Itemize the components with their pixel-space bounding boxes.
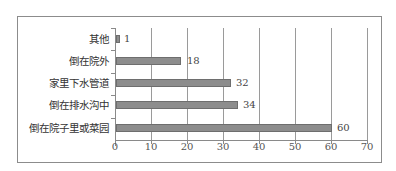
data-label: 34 (243, 100, 256, 110)
y-tick (111, 28, 115, 29)
y-tick (111, 73, 115, 74)
y-tick (111, 118, 115, 119)
bar-daozaiyuanzilihuocaiyuan (116, 124, 332, 132)
data-label: 32 (236, 78, 249, 88)
data-label: 60 (337, 123, 350, 133)
bar-qita (116, 35, 120, 43)
category-label: 倒在院子里或菜园 (29, 122, 109, 134)
plot-area: 1 18 32 34 60 (115, 28, 367, 140)
x-tick-label: 40 (253, 142, 266, 152)
data-label: 18 (187, 56, 200, 66)
bar-daozaipaishuigouzhong (116, 101, 238, 109)
x-tick-label: 70 (361, 142, 374, 152)
x-tick-label: 10 (145, 142, 158, 152)
data-label: 1 (124, 34, 130, 44)
bar-daozaiyuanwai (116, 57, 181, 65)
bar-jialixiashuiguandao (116, 79, 231, 87)
x-tick-label: 60 (325, 142, 338, 152)
x-tick-label: 0 (112, 142, 118, 152)
y-tick (111, 95, 115, 96)
category-label: 倒在院外 (69, 55, 109, 67)
category-label: 其他 (89, 33, 109, 45)
x-tick-label: 50 (289, 142, 302, 152)
gridline-70 (367, 28, 368, 140)
x-tick-label: 20 (181, 142, 194, 152)
category-label: 倒在排水沟中 (49, 99, 109, 111)
category-label: 家里下水管道 (49, 77, 109, 89)
y-tick (111, 50, 115, 51)
x-tick-label: 30 (217, 142, 230, 152)
